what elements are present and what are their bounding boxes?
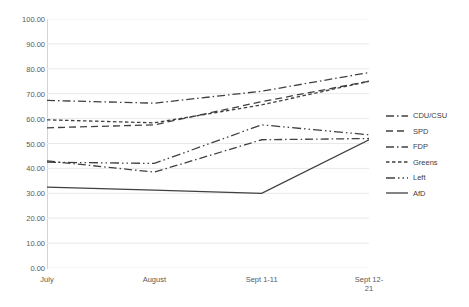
series-line-left (47, 125, 369, 164)
legend-swatch-icon (386, 173, 408, 183)
x-axis-tick-label: July (17, 275, 77, 284)
plot-area (47, 19, 369, 268)
y-axis-tick-label: 40.00 (1, 164, 45, 173)
y-axis-tick-label: 60.00 (1, 115, 45, 124)
chart-legend: CDU/CSUSPDFDPGreensLeftAfD (386, 108, 469, 201)
legend-swatch-icon (386, 157, 408, 167)
legend-item-fdp[interactable]: FDP (386, 139, 469, 155)
y-axis-tick-label: 20.00 (1, 214, 45, 223)
legend-item-left[interactable]: Left (386, 170, 469, 186)
y-axis-tick-labels: 100.0090.0080.0070.0060.0050.0040.0030.0… (0, 0, 45, 307)
y-axis-tick-label: 70.00 (1, 90, 45, 99)
legend-swatch-icon (386, 188, 408, 198)
y-axis-tick-label: 90.00 (1, 40, 45, 49)
legend-item-greens[interactable]: Greens (386, 155, 469, 171)
legend-swatch-icon (386, 142, 408, 152)
x-axis-tick-label: August (124, 275, 184, 284)
y-axis-tick-label: 80.00 (1, 65, 45, 74)
legend-label: FDP (413, 142, 428, 151)
y-axis-tick-label: 100.00 (1, 15, 45, 24)
legend-label: Left (413, 173, 426, 182)
legend-label: Greens (413, 158, 438, 167)
x-axis-tick-label: Sept 12- 21 (339, 275, 399, 293)
chart-root: 100.0090.0080.0070.0060.0050.0040.0030.0… (0, 0, 469, 307)
legend-item-cdu-csu[interactable]: CDU/CSU (386, 108, 469, 124)
x-axis-tick-label: Sept 1-11 (232, 275, 292, 284)
legend-label: AfD (413, 189, 426, 198)
series-line-cdu-csu (47, 73, 369, 104)
legend-item-spd[interactable]: SPD (386, 124, 469, 140)
y-axis-tick-label: 30.00 (1, 189, 45, 198)
y-axis-tick-label: 0.00 (1, 264, 45, 273)
legend-label: SPD (413, 127, 428, 136)
legend-item-afd[interactable]: AfD (386, 186, 469, 202)
chart-title (0, 0, 380, 2)
legend-swatch-icon (386, 126, 408, 136)
y-axis-tick-label: 10.00 (1, 239, 45, 248)
legend-swatch-icon (386, 111, 408, 121)
legend-label: CDU/CSU (413, 111, 447, 120)
y-axis-tick-label: 50.00 (1, 140, 45, 149)
